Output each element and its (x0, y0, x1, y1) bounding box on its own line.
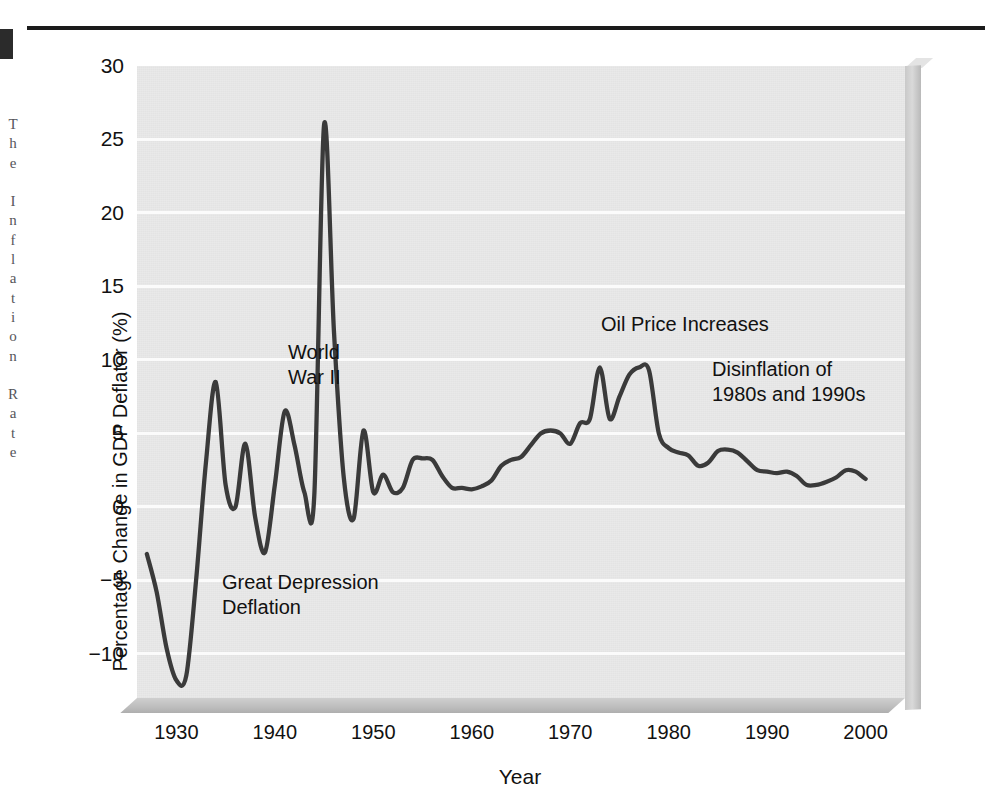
y-axis-label-holder: Percentage Change in GDP Deflator (%) (60, 180, 84, 480)
x-tick-label: 1930 (136, 722, 216, 742)
annotation-oil-price-increases: Oil Price Increases (601, 312, 769, 337)
annotation-world-war-ii: World War II (288, 340, 341, 390)
plot-bevel-right (905, 65, 921, 710)
y-tick-label: 25 (80, 128, 124, 149)
annotation-great-depression-deflation: Great Depression Deflation (222, 570, 379, 620)
annotation-disinflation: Disinflation of 1980s and 1990s (712, 357, 865, 407)
x-tick-label: 1990 (727, 722, 807, 742)
x-tick-label: 1940 (235, 722, 315, 742)
figure-root: T h e I n f l a t i o n R a t e 30252015… (0, 0, 985, 808)
x-tick-label: 1970 (530, 722, 610, 742)
x-tick-label: 1980 (629, 722, 709, 742)
y-tick-label: 30 (80, 55, 124, 76)
chart-container: 302520151050−5−10 1930194019501960197019… (0, 0, 985, 808)
x-tick-label: 1950 (333, 722, 413, 742)
x-tick-label: 2000 (826, 722, 906, 742)
x-axis-label: Year (460, 765, 580, 789)
plot-bevel-bottom (120, 698, 905, 713)
y-axis-label: Percentage Change in GDP Deflator (%) (109, 282, 132, 702)
y-tick-label: 20 (80, 202, 124, 223)
x-tick-label: 1960 (432, 722, 512, 742)
